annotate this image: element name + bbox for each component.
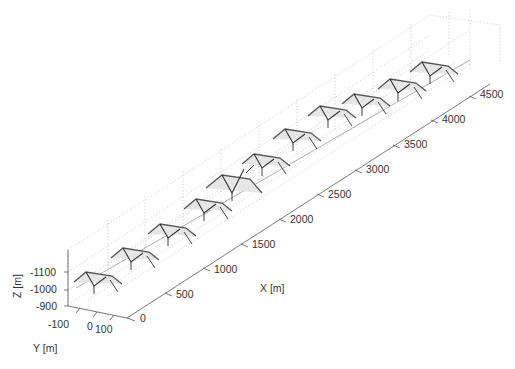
glider: [111, 248, 159, 270]
x-tick-label: 1500: [252, 238, 276, 250]
x-tick-label: 3500: [404, 138, 428, 150]
glider: [184, 199, 232, 221]
glider: [148, 224, 196, 246]
y-tick-label: 100: [95, 323, 113, 335]
y-tick-label: -100: [48, 318, 69, 330]
y-tick-label: 0: [87, 320, 93, 332]
z-tick-label: -900: [36, 300, 57, 312]
x-tick-label: 500: [176, 288, 194, 300]
y-axis-label: Y [m]: [33, 342, 57, 354]
z-axis-label: Z [m]: [11, 274, 23, 298]
z-tick-labels: -1100 -1000 -900: [30, 266, 57, 312]
y-tick-labels: -100 0 100: [48, 318, 113, 335]
z-tick-label: -1100: [30, 266, 56, 278]
x-tick-label: 1000: [214, 263, 238, 275]
x-tick-label: 2500: [328, 188, 352, 200]
3d-plot: 0 500 1000 1500 2000 2500 3000 3500 4000…: [0, 0, 515, 369]
glider: [74, 272, 122, 294]
z-tick-label: -1000: [30, 283, 57, 295]
glider: [242, 154, 290, 176]
glider: [308, 106, 356, 128]
x-tick-label: 4500: [480, 88, 504, 100]
x-tick-label: 2000: [290, 213, 314, 225]
x-tick-label: 4000: [442, 113, 466, 125]
glider: [378, 79, 426, 101]
x-tick-label: 3000: [366, 163, 390, 175]
x-axis-label: X [m]: [260, 282, 285, 294]
x-tick-label: 0: [140, 312, 146, 324]
